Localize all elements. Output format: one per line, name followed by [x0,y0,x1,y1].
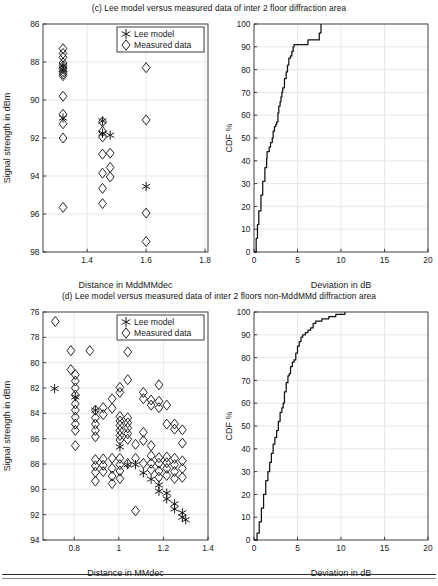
y-tick-label: 90 [241,42,251,52]
diamond-marker [106,172,114,182]
x-tick-label: 20 [423,543,433,553]
x-tick-label: 5 [295,543,300,553]
y-tick-label: 0 [246,247,251,257]
diamond-marker [99,454,107,464]
y-tick-label: 98 [30,247,40,257]
y-tick-label: 86 [30,19,40,29]
grid-lines [254,24,428,252]
d-cdf-svg: 051015200102030405060708090100Deviation … [222,302,438,578]
diamond-marker [124,375,132,385]
chart-legend: Lee modelMeasured data [117,315,204,340]
x-tick-label: 1.4 [202,543,214,553]
y-tick-label: 78 [30,332,40,342]
diamond-marker [139,458,147,468]
x-tick-label: 1 [116,543,121,553]
y-tick-label: 10 [241,224,251,234]
diamond-marker [108,471,116,481]
x-tick-label: 1.6 [140,255,152,265]
y-tick-label: 100 [237,307,251,317]
grid-lines [43,24,208,252]
y-tick-label: 84 [30,408,40,418]
y-tick-label: 30 [241,467,251,477]
y-tick-label: 90 [241,330,251,340]
diamond-marker [99,168,107,178]
diamond-marker [106,162,114,172]
legend-label-measured-data: Measured data [134,328,192,338]
y-tick-label: 70 [241,88,251,98]
x-axis-label: Deviation in dB [311,280,372,290]
y-tick-label: 20 [241,202,251,212]
y-tick-label: 88 [30,459,40,469]
y-tick-label: 82 [30,383,40,393]
diamond-marker [163,419,171,429]
diamond-marker [99,460,107,470]
x-tick-label: 1.2 [158,543,170,553]
diamond-marker [132,439,140,449]
diamond-marker [147,441,155,451]
axis-ticks: 1.41.61.886889092949698 [30,19,211,264]
diamond-marker [178,425,186,435]
diamond-marker [155,403,163,413]
diamond-marker [71,425,79,435]
y-tick-label: 60 [241,110,251,120]
diamond-marker [59,202,67,212]
x-tick-label: 10 [336,255,346,265]
x-axis-label: Deviation in dB [311,568,372,578]
diamond-marker [155,396,163,406]
diamond-marker [178,456,186,466]
x-tick-label: 5 [295,255,300,265]
diamond-marker [71,405,79,415]
diamond-marker [106,148,114,158]
y-tick-label: 0 [246,535,251,545]
diamond-marker [108,403,116,413]
diamond-marker [139,387,147,397]
diamond-marker [171,467,179,477]
x-axis-label: Distance in MddMMdec [78,280,173,290]
diamond-marker [108,479,116,489]
diamond-marker [155,466,163,476]
measured-data-points [59,44,150,247]
x-tick-label: 10 [336,543,346,553]
legend-label-lee-model: Lee model [134,317,174,327]
diamond-marker [99,183,107,193]
y-axis-label: Signal strength in dBm [2,381,12,472]
x-axis-label: Distance in MMdec [87,568,164,578]
x-tick-label: 0 [252,543,257,553]
diamond-marker [99,410,107,420]
diamond-marker [91,425,99,435]
panel-d-cdf-chart: 051015200102030405060708090100Deviation … [222,302,438,578]
x-tick-label: 20 [423,255,433,265]
diamond-marker [91,432,99,442]
axis-ticks: 051015200102030405060708090100 [237,19,433,264]
diamond-marker [99,403,107,413]
y-tick-label: 92 [30,510,40,520]
panel-c-caption: (c) Lee model versus measured data of in… [0,3,438,13]
page-separator-rule-thin [2,578,436,579]
y-tick-label: 76 [30,307,40,317]
y-tick-label: 100 [237,19,251,29]
diamond-marker [163,400,171,410]
diamond-marker [171,460,179,470]
c-scatter-svg: 1.41.61.886889092949698Distance in MddMM… [0,14,222,290]
diamond-marker [71,419,79,429]
y-tick-label: 90 [30,95,40,105]
x-tick-label: 0.8 [68,543,80,553]
diamond-marker [91,461,99,471]
diamond-marker [108,463,116,473]
y-tick-label: 20 [241,490,251,500]
diamond-marker [71,370,79,380]
y-tick-label: 94 [30,535,40,545]
y-tick-label: 92 [30,133,40,143]
diamond-marker [116,453,124,463]
diamond-marker [108,453,116,463]
y-tick-label: 40 [241,444,251,454]
panel-d-caption: (d) Lee model versus measured data of in… [0,291,438,301]
legend-label-lee-model: Lee model [134,29,174,39]
x-tick-label: 15 [380,255,390,265]
diamond-marker [116,474,124,484]
diamond-marker [147,451,155,461]
diamond-marker [91,419,99,429]
chart-legend: Lee modelMeasured data [117,27,204,52]
y-axis-label: Signal strength in dBm [2,93,12,184]
y-tick-label: 80 [30,358,40,368]
